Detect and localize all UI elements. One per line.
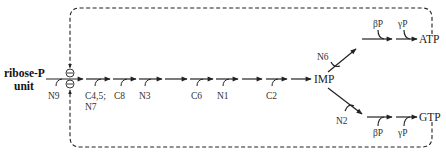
purine-biosynthesis-diagram: ribose-P unit N9 C4,5; N7 C8 N3 C6 N1 C2… <box>0 0 446 153</box>
gtp-beta-phosphate: βP <box>373 128 383 138</box>
start-label-line2: unit <box>14 80 34 92</box>
step-label-n3: N3 <box>139 91 151 101</box>
atp-entry-label: N6 <box>317 52 329 62</box>
atp-product-label: ATP <box>419 33 439 45</box>
inhibition-icon-bottom <box>66 80 74 88</box>
input-hooks <box>56 79 278 86</box>
feedback-loop-atp <box>70 8 432 68</box>
step-label-n1: N1 <box>217 91 229 101</box>
inhibition-icon-top <box>66 69 74 77</box>
gtp-entry-label: N2 <box>336 116 348 126</box>
start-label: ribose-P <box>4 67 45 79</box>
step-label-c6: C6 <box>191 91 202 101</box>
atp-gamma-phosphate: γP <box>397 19 407 29</box>
gtp-gamma-phosphate: γP <box>397 128 407 138</box>
step-label-c8: C8 <box>114 91 125 101</box>
gtp-product-label: GTP <box>419 111 441 123</box>
intermediate-label: IMP <box>314 73 334 85</box>
step-label-c45: C4,5; <box>85 91 106 101</box>
step-label-n7: N7 <box>85 102 97 112</box>
atp-beta-phosphate: βP <box>373 19 383 29</box>
step-label-n9: N9 <box>48 91 60 101</box>
atp-branch <box>328 30 417 72</box>
step-label-c2: C2 <box>266 91 277 101</box>
